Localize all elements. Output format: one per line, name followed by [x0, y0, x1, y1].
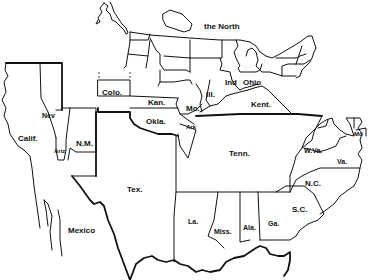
label-nev: Nev	[42, 112, 55, 119]
label-mo: Mo.	[186, 105, 200, 113]
label-calif: Calif.	[18, 135, 38, 143]
label-kan: Kan.	[148, 99, 165, 107]
label-ark: Ark	[186, 124, 196, 130]
west-outline	[6, 63, 62, 110]
label-ohio: Ohio	[243, 79, 261, 87]
label-colo: Colo.	[102, 89, 122, 97]
label-ga: Ga.	[268, 220, 279, 227]
map-outlines	[0, 0, 372, 280]
label-la: La.	[188, 218, 198, 225]
gulf-coast	[130, 246, 290, 280]
label-va: Va.	[337, 158, 347, 165]
label-ind: Ind	[225, 79, 237, 87]
label-tex: Tex.	[127, 186, 142, 194]
label-sc: S.C.	[292, 206, 308, 214]
historical-map: the North Colo. Nev Calif. Ariz N.M. Kan…	[0, 0, 372, 280]
label-nc: N.C.	[305, 180, 321, 188]
island-outline	[163, 10, 192, 32]
label-nm: N.M.	[76, 140, 93, 148]
label-kent: Kent.	[251, 101, 271, 109]
label-ill: Ill.	[206, 91, 215, 99]
label-wva: W.Va.	[304, 147, 322, 154]
label-okla: Okla.	[146, 118, 166, 126]
label-md: Md	[354, 131, 363, 137]
label-mexico: Mexico	[68, 227, 95, 235]
label-ariz: Ariz	[54, 148, 65, 154]
label-the-north: the North	[204, 23, 240, 31]
label-ala: Ala.	[243, 224, 256, 231]
baja-outline	[44, 200, 62, 256]
label-tenn: Tenn.	[229, 150, 250, 158]
alaska-outline	[96, 2, 128, 34]
label-miss: Miss.	[214, 228, 232, 235]
